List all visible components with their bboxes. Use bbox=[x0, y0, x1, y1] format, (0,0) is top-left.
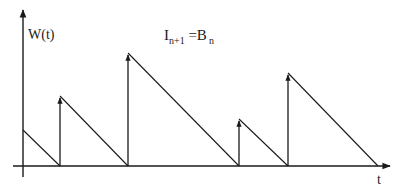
equation-operator: = bbox=[188, 27, 196, 43]
equation-annotation: In+1 =Bn bbox=[164, 27, 214, 46]
decay-segment bbox=[239, 119, 288, 166]
decay-segment bbox=[23, 130, 60, 166]
arrival-jumps bbox=[60, 55, 288, 166]
decay-segment bbox=[288, 73, 378, 166]
equation-rhs-subscript: n bbox=[209, 35, 214, 46]
workload-diagram: W(t) t In+1 =Bn bbox=[0, 0, 402, 194]
decay-segment bbox=[128, 53, 239, 166]
x-axis-label: t bbox=[377, 172, 381, 188]
decay-segment bbox=[60, 96, 128, 166]
equation-lhs-subscript: n+1 bbox=[169, 35, 185, 46]
y-axis-label: W(t) bbox=[28, 27, 54, 43]
equation-rhs: B bbox=[197, 27, 207, 43]
workload-curve bbox=[23, 53, 378, 166]
